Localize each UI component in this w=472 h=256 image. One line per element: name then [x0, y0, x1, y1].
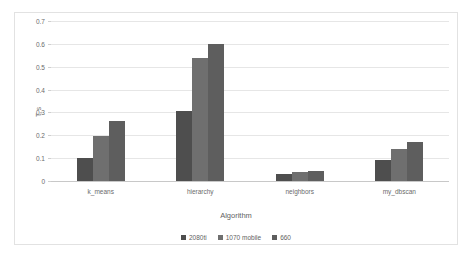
- bar: [276, 174, 292, 181]
- bar: [375, 160, 391, 181]
- bar-group: neighbors: [250, 21, 350, 181]
- legend-label: 1070 mobile: [226, 234, 261, 241]
- bar-group: my_dbscan: [350, 21, 450, 181]
- y-axis-tick-label: 0: [41, 178, 45, 185]
- x-axis-tick-label: hierarchy: [187, 188, 214, 195]
- x-axis-tick-label: my_dbscan: [383, 188, 416, 195]
- y-axis-tick-label: 0.2: [36, 132, 45, 139]
- y-axis-tick-label: 0.7: [36, 18, 45, 25]
- plot-area: 00.10.20.30.40.50.60.7 k_meanshierarchyn…: [51, 21, 449, 181]
- y-axis-tick-label: 0.3: [36, 109, 45, 116]
- bar: [176, 111, 192, 181]
- x-axis-tick-label: neighbors: [285, 188, 314, 195]
- y-axis-tick-mark: [48, 181, 51, 182]
- bar-group: hierarchy: [151, 21, 251, 181]
- legend-swatch-icon: [181, 235, 186, 240]
- legend-label: 2080ti: [189, 234, 207, 241]
- bar: [292, 172, 308, 181]
- bar: [208, 44, 224, 181]
- bar: [109, 121, 125, 181]
- legend-swatch-icon: [272, 235, 277, 240]
- gridline: 0: [51, 181, 449, 182]
- y-axis-tick-label: 0.4: [36, 86, 45, 93]
- bar: [407, 142, 423, 181]
- bar: [93, 136, 109, 181]
- y-axis-tick-label: 0.1: [36, 155, 45, 162]
- x-axis-tick-label: k_means: [88, 188, 114, 195]
- y-axis-tick-label: 0.6: [36, 40, 45, 47]
- legend-label: 660: [280, 234, 291, 241]
- bar-groups: k_meanshierarchyneighborsmy_dbscan: [51, 21, 449, 181]
- legend-item[interactable]: 2080ti: [181, 234, 207, 241]
- bar: [192, 58, 208, 181]
- bar: [77, 158, 93, 181]
- legend-swatch-icon: [218, 235, 223, 240]
- bar: [391, 149, 407, 181]
- legend-item[interactable]: 1070 mobile: [218, 234, 261, 241]
- chart-legend: 2080ti1070 mobile660: [15, 234, 457, 241]
- bar: [308, 171, 324, 182]
- chart-frame: T, s 00.10.20.30.40.50.60.7 k_meanshiera…: [14, 12, 458, 245]
- x-axis-title: Algorithm: [15, 211, 457, 220]
- legend-item[interactable]: 660: [272, 234, 291, 241]
- y-axis-tick-label: 0.5: [36, 63, 45, 70]
- bar-group: k_means: [51, 21, 151, 181]
